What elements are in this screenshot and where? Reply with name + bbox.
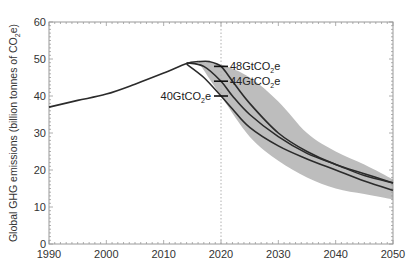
x-tick-label: 2030 [266,248,290,260]
annotation-label-40: 40GtCO2e [161,90,211,104]
annotation-label-44: 44GtCO2e [230,75,280,89]
x-tick-label: 2000 [94,248,118,260]
y-tick-label: 50 [34,53,46,65]
y-tick-label: 10 [34,201,46,213]
y-tick-label: 0 [40,238,46,250]
emissions-chart: 1990200020102020203020402050010203040506… [0,0,419,273]
plot-frame [49,22,393,244]
y-tick-label: 20 [34,164,46,176]
x-tick-label: 2020 [209,248,233,260]
x-tick-label: 2010 [151,248,175,260]
scenario-range-band [198,62,393,200]
y-axis-label: Global GHG emissions (billion tonnes of … [7,24,21,242]
x-tick-label: 2050 [381,248,405,260]
y-tick-label: 60 [34,16,46,28]
y-tick-label: 30 [34,127,46,139]
range-band-area [198,62,393,200]
x-tick-label: 2040 [323,248,347,260]
annotation-label-48: 48GtCO2e [230,60,280,74]
y-tick-label: 40 [34,90,46,102]
axes: 1990200020102020203020402050010203040506… [34,16,405,260]
